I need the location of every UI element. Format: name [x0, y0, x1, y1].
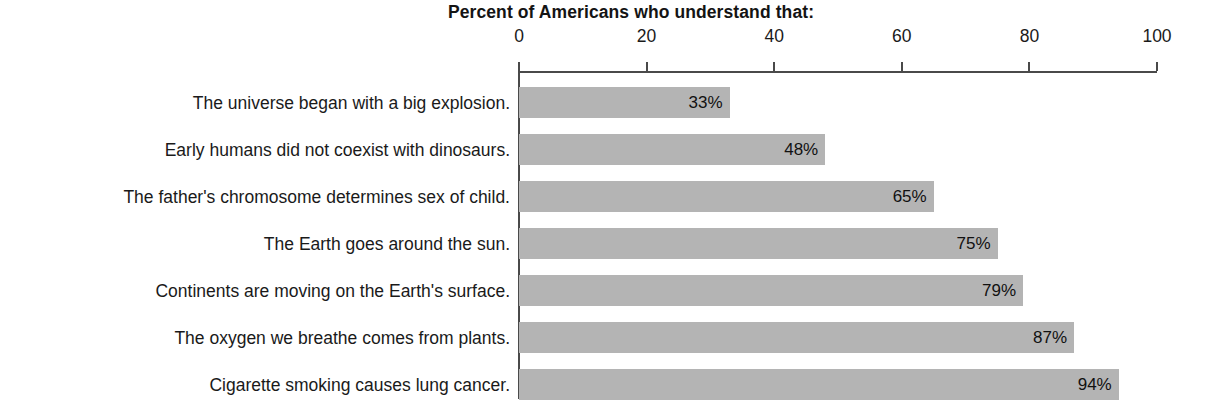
bar-value-label: 48% — [784, 140, 818, 160]
bar-value-label: 79% — [982, 281, 1016, 301]
bar: 65% — [519, 181, 934, 212]
bar: 79% — [519, 275, 1023, 306]
bar: 33% — [519, 87, 730, 118]
x-tick-mark — [1028, 62, 1030, 71]
x-axis-ticks: 020406080100 — [519, 62, 1157, 71]
bar-row: The universe began with a big explosion.… — [519, 87, 1157, 118]
x-tick-mark — [901, 62, 903, 71]
plot-area: 020406080100 The universe began with a b… — [519, 71, 1157, 399]
bar: 94% — [519, 369, 1119, 400]
bar: 87% — [519, 322, 1074, 353]
bar-row: The father's chromosome determines sex o… — [519, 181, 1157, 212]
x-tick-label: 100 — [1142, 26, 1171, 47]
bar-row: The oxygen we breathe comes from plants.… — [519, 322, 1157, 353]
x-tick-mark — [518, 62, 520, 71]
category-label: Early humans did not coexist with dinosa… — [165, 139, 510, 160]
category-label: The Earth goes around the sun. — [264, 233, 510, 254]
bar-row: Continents are moving on the Earth's sur… — [519, 275, 1157, 306]
bar-value-label: 65% — [893, 187, 927, 207]
category-label: The father's chromosome determines sex o… — [123, 186, 510, 207]
bar-row: The Earth goes around the sun.75% — [519, 228, 1157, 259]
x-tick-label: 60 — [892, 26, 911, 47]
x-axis-line — [519, 71, 1157, 73]
x-tick-mark — [646, 62, 648, 71]
x-tick-mark — [1156, 62, 1158, 71]
bar-value-label: 75% — [956, 234, 990, 254]
x-tick-label: 0 — [514, 26, 524, 47]
x-tick-mark — [773, 62, 775, 71]
bar: 48% — [519, 134, 825, 165]
category-label: The universe began with a big explosion. — [193, 92, 510, 113]
x-tick-label: 40 — [764, 26, 783, 47]
category-label: The oxygen we breathe comes from plants. — [174, 327, 510, 348]
x-tick-label: 20 — [637, 26, 656, 47]
bar: 75% — [519, 228, 998, 259]
bar-row: Early humans did not coexist with dinosa… — [519, 134, 1157, 165]
bar-value-label: 94% — [1078, 375, 1112, 395]
category-label: Continents are moving on the Earth's sur… — [155, 280, 510, 301]
bar-value-label: 33% — [689, 93, 723, 113]
x-tick-label: 80 — [1020, 26, 1039, 47]
bar-value-label: 87% — [1033, 328, 1067, 348]
chart-title: Percent of Americans who understand that… — [448, 2, 814, 23]
bar-chart: Percent of Americans who understand that… — [0, 0, 1213, 412]
category-label: Cigarette smoking causes lung cancer. — [209, 374, 510, 395]
bar-row: Cigarette smoking causes lung cancer.94% — [519, 369, 1157, 400]
